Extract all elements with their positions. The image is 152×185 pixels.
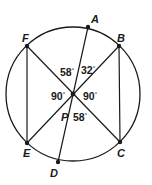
point-a — [86, 25, 90, 29]
degree-symbol: ° — [93, 65, 96, 71]
angle-label-bpc: 90° — [83, 90, 98, 102]
degree-symbol: ° — [63, 91, 66, 97]
label-d: D — [50, 167, 58, 179]
label-p: P — [61, 111, 69, 123]
degree-symbol: ° — [85, 112, 88, 118]
chord-bc — [119, 46, 120, 142]
degree-symbol: ° — [72, 67, 75, 73]
degree-symbol: ° — [95, 91, 98, 97]
point-f — [25, 44, 29, 48]
label-b: B — [117, 32, 125, 44]
label-a: A — [90, 13, 99, 25]
point-c — [118, 140, 122, 144]
angle-label-fpa: 58° — [60, 66, 75, 78]
angle-value: 58 — [60, 66, 72, 78]
label-f: F — [22, 32, 29, 44]
label-e: E — [23, 147, 31, 159]
point-b — [117, 44, 121, 48]
angle-value: 90 — [83, 90, 95, 102]
angle-value: 58 — [73, 111, 85, 123]
point-e — [25, 141, 29, 145]
angle-label-dpc: 58° — [73, 111, 88, 123]
angle-label-fpe: 90° — [51, 90, 66, 102]
point-p — [71, 92, 76, 97]
point-d — [56, 160, 60, 164]
angle-label-apb: 32° — [81, 64, 96, 76]
angle-value: 32 — [81, 64, 93, 76]
angle-value: 90 — [51, 90, 63, 102]
label-c: C — [117, 147, 126, 159]
circle-chords-diagram: A B C D E F P 58° 32° 90° 90° 58° — [0, 0, 152, 185]
